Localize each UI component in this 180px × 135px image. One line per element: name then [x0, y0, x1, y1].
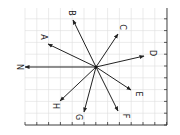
vector-f-arrow — [96, 67, 118, 111]
vector-label: E — [134, 91, 143, 96]
vector-label: N — [15, 64, 24, 70]
vector-label: A — [39, 34, 48, 40]
vector-label: B — [67, 10, 76, 16]
vector-label: C — [118, 24, 127, 30]
vector-b-arrow — [73, 20, 96, 67]
vector-label: D — [148, 50, 157, 56]
vectors: NABCDEFGH — [15, 10, 157, 120]
vector-diagram: NABCDEFGH — [0, 0, 180, 135]
vector-label: G — [74, 114, 83, 120]
origin-point — [94, 65, 97, 68]
vector-h-arrow — [60, 67, 96, 101]
vector-label: H — [51, 103, 60, 109]
vector-d-arrow — [96, 56, 144, 67]
vector-c-arrow — [96, 34, 118, 67]
vector-label: F — [121, 114, 130, 119]
